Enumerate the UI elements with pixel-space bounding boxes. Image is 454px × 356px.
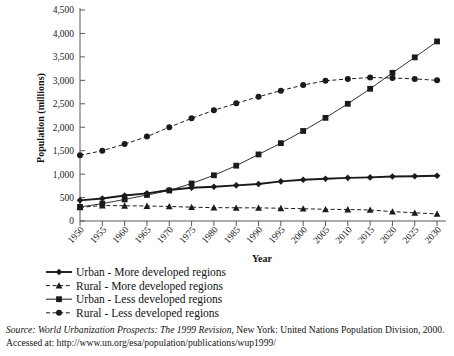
y-tick-label: 0: [69, 216, 74, 226]
marker-square: [434, 39, 440, 45]
marker-circle: [434, 77, 440, 83]
y-tick-label: 500: [60, 193, 75, 203]
marker-square: [166, 188, 172, 194]
marker-square: [77, 204, 83, 210]
marker-square: [189, 181, 195, 187]
x-tick-label: 2020: [378, 224, 398, 245]
marker-square: [144, 192, 150, 198]
marker-square: [278, 140, 284, 146]
marker-circle: [300, 82, 306, 88]
y-tick-label: 4,500: [53, 5, 75, 15]
marker-square: [412, 54, 418, 60]
x-tick-label: 1965: [133, 224, 153, 245]
marker-diamond: [77, 197, 84, 204]
y-tick-label: 3,000: [53, 76, 75, 86]
marker-diamond: [300, 176, 307, 183]
marker-circle: [322, 78, 328, 84]
marker-circle: [412, 76, 418, 82]
x-tick-label: 2025: [401, 224, 421, 245]
marker-diamond: [389, 173, 396, 180]
marker-circle: [166, 124, 172, 130]
marker-square: [122, 197, 128, 203]
marker-circle: [345, 76, 351, 82]
marker-square: [390, 70, 396, 76]
marker-circle: [99, 148, 105, 154]
marker-circle: [189, 115, 195, 121]
marker-diamond: [322, 176, 329, 183]
x-tick-label: 1955: [88, 224, 108, 245]
legend-label: Urban - Less developed regions: [76, 293, 223, 306]
marker-circle: [278, 88, 284, 94]
series-4: [77, 75, 440, 159]
marker-circle: [144, 134, 150, 140]
marker-diamond: [367, 174, 374, 181]
y-tick-label: 2,000: [53, 123, 75, 133]
x-tick-label: 2015: [356, 224, 376, 245]
series-path: [80, 78, 437, 156]
marker-diamond: [211, 183, 218, 190]
marker-circle: [367, 75, 373, 81]
legend-item-2[interactable]: Rural - More developed regions: [46, 280, 223, 293]
x-tick-label: 2000: [289, 224, 309, 245]
legend-label: Urban - More developed regions: [76, 266, 227, 279]
marker-square: [367, 86, 373, 92]
legend-item-1[interactable]: Urban - More developed regions: [46, 266, 227, 279]
legend-item-3[interactable]: Urban - Less developed regions: [46, 293, 223, 306]
marker-diamond: [56, 269, 63, 276]
x-tick-label: 1980: [200, 224, 220, 245]
marker-diamond: [255, 181, 262, 188]
y-tick-label: 1,000: [53, 170, 75, 180]
plot-area: 05001,0001,5002,0002,5003,0003,5004,0004…: [53, 5, 446, 245]
marker-diamond: [278, 178, 285, 185]
marker-square: [256, 152, 262, 158]
marker-square: [99, 201, 105, 207]
y-tick-label: 1,500: [53, 146, 75, 156]
marker-square: [211, 172, 217, 178]
marker-diamond: [411, 173, 418, 180]
x-tick-label: 2005: [311, 224, 331, 245]
series-path: [80, 176, 437, 201]
population-line-chart: 05001,0001,5002,0002,5003,0003,5004,0004…: [0, 0, 454, 324]
marker-triangle: [211, 204, 218, 210]
marker-circle: [211, 107, 217, 113]
marker-square: [56, 296, 62, 302]
marker-circle: [233, 100, 239, 106]
source-title-label: World Urbanization Prospects: The 1999 R…: [35, 324, 231, 335]
chart-legend: Urban - More developed regionsRural - Mo…: [46, 266, 227, 320]
marker-square: [323, 115, 329, 121]
marker-diamond: [434, 172, 441, 179]
marker-circle: [122, 141, 128, 147]
marker-triangle: [434, 211, 441, 217]
marker-square: [233, 163, 239, 169]
y-tick-label: 3,500: [53, 52, 75, 62]
x-tick-label: 1975: [177, 224, 197, 245]
marker-circle: [77, 152, 83, 158]
y-tick-label: 2,500: [53, 99, 75, 109]
source-lead-label: Source:: [6, 324, 35, 335]
x-tick-label: 2010: [334, 224, 354, 245]
x-tick-label: 1985: [222, 224, 242, 245]
y-axis-title: Population (millions): [35, 73, 47, 163]
series-2: [77, 202, 441, 217]
marker-circle: [256, 94, 262, 100]
series-1: [77, 172, 441, 203]
x-tick-label: 1990: [244, 224, 264, 245]
x-tick-label: 1970: [155, 224, 175, 245]
x-tick-label: 1960: [110, 224, 130, 245]
marker-circle: [389, 75, 395, 81]
chart-figure: 05001,0001,5002,0002,5003,0003,5004,0004…: [0, 0, 454, 356]
x-tick-label: 1995: [267, 224, 287, 245]
marker-circle: [56, 310, 62, 316]
legend-label: Rural - Less developed regions: [76, 307, 220, 320]
x-tick-label: 1950: [66, 224, 86, 245]
y-tick-label: 4,000: [53, 29, 75, 39]
marker-diamond: [233, 182, 240, 189]
source-note: Source: World Urbanization Prospects: Th…: [6, 324, 448, 349]
marker-square: [345, 101, 351, 107]
legend-item-4[interactable]: Rural - Less developed regions: [46, 307, 220, 320]
x-axis-title: Year: [252, 253, 273, 264]
marker-square: [300, 128, 306, 134]
marker-diamond: [345, 175, 352, 182]
x-tick-label: 2030: [423, 224, 443, 245]
legend-label: Rural - More developed regions: [76, 280, 223, 293]
